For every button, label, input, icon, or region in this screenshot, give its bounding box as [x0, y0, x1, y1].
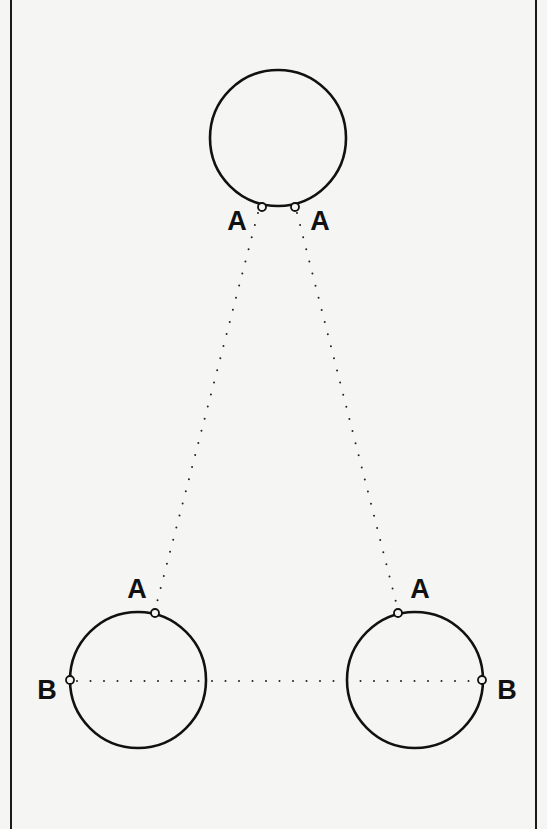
label-bottom-left-a: A	[127, 576, 147, 603]
bottom-right-circle	[347, 612, 483, 748]
point-marker-bottom-left-a	[151, 609, 159, 617]
top-circle	[210, 70, 346, 206]
diagram-canvas	[0, 0, 547, 829]
label-top-right-a: A	[310, 208, 330, 235]
label-bottom-right-a: A	[410, 576, 430, 603]
dotted-line-a-left	[156, 213, 258, 606]
label-top-left-a: A	[227, 208, 247, 235]
point-marker-bottom-right-a	[394, 609, 402, 617]
point-marker-top-a-left	[258, 203, 266, 211]
bottom-left-circle	[70, 612, 206, 748]
label-bottom-right-b: B	[497, 677, 517, 704]
diagram-figure: A A A B A B	[0, 0, 547, 829]
point-marker-bottom-right-b	[478, 676, 486, 684]
point-marker-bottom-left-b	[66, 676, 74, 684]
point-marker-top-a-right	[291, 203, 299, 211]
label-bottom-left-b: B	[37, 677, 57, 704]
dotted-line-a-right	[297, 213, 397, 606]
